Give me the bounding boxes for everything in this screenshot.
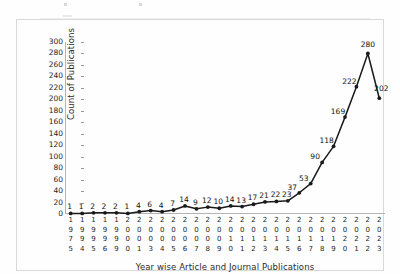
x-axis-tick: 2007 xyxy=(191,216,202,254)
x-axis-tick-digit: 5 xyxy=(88,245,99,255)
data-point-label: 4 xyxy=(159,201,164,209)
x-axis-tick-digit: 9 xyxy=(88,226,99,236)
x-axis-tick-digit: 1 xyxy=(317,235,328,245)
x-axis-tick-digit: 9 xyxy=(111,226,122,236)
x-axis-tick-digit: 2 xyxy=(374,235,385,245)
x-axis-tick-digit: 2 xyxy=(260,216,271,226)
x-axis-tick-digit: 9 xyxy=(111,235,122,245)
x-axis-tick-digit: 5 xyxy=(65,245,76,255)
x-axis-tick-digit: 6 xyxy=(180,245,191,255)
x-axis-tick-digit: 2 xyxy=(317,216,328,226)
x-axis-tick-digit: 0 xyxy=(191,226,202,236)
x-axis-tick-digit: 2 xyxy=(374,216,385,226)
x-axis-tick: 1994 xyxy=(77,216,88,254)
x-axis-tick-digit: 0 xyxy=(122,226,133,236)
scan-speck xyxy=(64,3,67,6)
x-axis-tick: 2013 xyxy=(260,216,271,254)
data-point-marker xyxy=(286,199,290,203)
x-axis-tick: 1996 xyxy=(100,216,111,254)
x-axis-tick-digit: 3 xyxy=(260,245,271,255)
x-axis-tick-digit: 1 xyxy=(237,235,248,245)
x-axis-tick-digit: 1 xyxy=(237,245,248,255)
x-axis-tick-digit: 2 xyxy=(225,216,236,226)
data-point-marker xyxy=(183,204,187,208)
data-point-marker xyxy=(263,200,267,204)
x-axis-tick-digit: 9 xyxy=(100,235,111,245)
data-point-marker xyxy=(126,212,130,216)
x-axis-tick-digit: 1 xyxy=(248,235,259,245)
data-point-marker xyxy=(332,144,336,148)
data-point-label: 23 xyxy=(282,190,292,198)
x-axis-tick-digit: 0 xyxy=(237,226,248,236)
x-axis-tick-digit: 2 xyxy=(340,216,351,226)
x-axis-tick-digit: 2 xyxy=(362,235,373,245)
x-axis-tick-digit: 7 xyxy=(305,245,316,255)
x-axis-tick-digit: 0 xyxy=(328,226,339,236)
x-axis-tick-digit: 2 xyxy=(237,216,248,226)
x-axis-tick-digit: 2 xyxy=(328,216,339,226)
x-axis-tick-digit: 7 xyxy=(191,245,202,255)
x-axis-tick: 2000 xyxy=(122,216,133,254)
data-point-label: 17 xyxy=(248,194,258,202)
data-point-marker xyxy=(172,208,176,212)
x-axis-tick-digit: 2 xyxy=(157,216,168,226)
data-point-marker xyxy=(297,191,301,195)
x-axis-tick-digit: 9 xyxy=(100,226,111,236)
x-axis-tick: 2010 xyxy=(225,216,236,254)
data-point-marker xyxy=(137,210,141,214)
x-axis-tick-digit: 0 xyxy=(145,226,156,236)
data-point-label: 14 xyxy=(225,195,235,203)
data-point-marker xyxy=(343,115,347,119)
data-point-marker xyxy=(115,211,119,215)
data-point-marker xyxy=(217,206,221,210)
x-axis-tick-digit: 9 xyxy=(111,245,122,255)
data-point-marker xyxy=(240,205,244,209)
data-point-marker xyxy=(366,52,370,56)
x-axis-tick: 2019 xyxy=(328,216,339,254)
x-axis-tick-digit: 2 xyxy=(248,216,259,226)
x-axis-tick-digit: 1 xyxy=(111,216,122,226)
data-point-label: 169 xyxy=(331,108,345,116)
x-axis-title: Year wise Article and Journal Publicatio… xyxy=(65,262,385,272)
data-point-marker xyxy=(160,210,164,214)
x-axis-tick-digit: 0 xyxy=(134,235,145,245)
x-axis-tick-digit: 0 xyxy=(271,226,282,236)
x-axis-tick-digit: 0 xyxy=(305,226,316,236)
x-axis-tick-digit: 1 xyxy=(305,235,316,245)
data-point-marker xyxy=(80,212,84,216)
x-axis-tick-digit: 2 xyxy=(168,216,179,226)
x-axis-tick-digit: 2 xyxy=(202,216,213,226)
x-axis-tick-digit: 2 xyxy=(214,216,225,226)
data-point-label: 1 xyxy=(124,203,129,211)
x-axis-tick-digit: 9 xyxy=(77,235,88,245)
x-axis-tick-digit: 0 xyxy=(248,226,259,236)
x-axis-tick: 2011 xyxy=(237,216,248,254)
x-axis-tick-digit: 2 xyxy=(248,245,259,255)
data-point-marker xyxy=(92,211,96,215)
x-axis-tick-digit: 0 xyxy=(134,226,145,236)
x-axis-tick-digit: 3 xyxy=(145,245,156,255)
x-axis-tick-digit: 2 xyxy=(134,216,145,226)
x-axis-tick-digit: 1 xyxy=(134,245,145,255)
data-point-label: 4 xyxy=(136,201,141,209)
data-point-marker xyxy=(69,212,73,216)
data-point-label: 2 xyxy=(90,202,95,210)
x-axis-tick-digit: 2 xyxy=(351,235,362,245)
x-axis-tick-digit: 0 xyxy=(225,245,236,255)
x-axis-tick-digit: 4 xyxy=(77,245,88,255)
data-point-label: 202 xyxy=(374,85,388,93)
x-axis-tick-digit: 7 xyxy=(65,235,76,245)
x-axis-tick-digit: 0 xyxy=(362,226,373,236)
x-axis-tick-digit: 5 xyxy=(168,245,179,255)
data-point-label: 10 xyxy=(214,198,224,206)
x-axis-tick: 2020 xyxy=(340,216,351,254)
x-axis-tick-digit: 9 xyxy=(88,235,99,245)
x-axis-tick-digit: 0 xyxy=(168,226,179,236)
x-axis-tick-digit: 0 xyxy=(191,235,202,245)
data-point-marker xyxy=(355,85,359,89)
x-axis-tick-digit: 0 xyxy=(122,235,133,245)
x-axis-tick-digit: 2 xyxy=(145,216,156,226)
x-axis-tick: 2015 xyxy=(282,216,293,254)
x-axis-tick-digit: 9 xyxy=(77,226,88,236)
x-axis-tick-digit: 8 xyxy=(317,245,328,255)
